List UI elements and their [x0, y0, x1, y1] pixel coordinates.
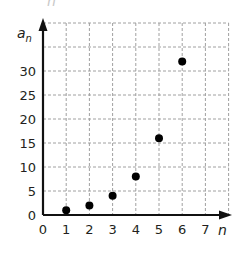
x-tick-labels: 01234567 — [39, 222, 210, 237]
y-tick-label: 0 — [28, 208, 36, 223]
x-tick-label: 7 — [201, 222, 209, 237]
y-tick-label: 20 — [19, 112, 36, 127]
x-tick-label: 4 — [132, 222, 140, 237]
x-tick-label: 1 — [62, 222, 70, 237]
y-axis-label-sub: n — [26, 33, 32, 44]
x-tick-label: 3 — [108, 222, 116, 237]
data-point — [155, 134, 163, 142]
y-tick-label: 15 — [19, 136, 36, 151]
grid-lines — [43, 23, 229, 215]
data-point — [132, 173, 140, 181]
x-tick-label: 2 — [85, 222, 93, 237]
data-point — [62, 206, 70, 214]
y-tick-label: 10 — [19, 160, 36, 175]
y-tick-label: 25 — [19, 88, 36, 103]
y-tick-label: 5 — [28, 184, 36, 199]
y-tick-label: 30 — [19, 64, 36, 79]
x-tick-label: 5 — [155, 222, 163, 237]
x-tick-label: 6 — [178, 222, 186, 237]
y-axis-label: an — [17, 25, 32, 44]
x-axis-arrow-icon — [219, 211, 232, 220]
y-tick-labels: 051015202530 — [19, 64, 36, 223]
y-axis-arrow-icon — [39, 18, 48, 31]
x-axis-label: n — [218, 222, 227, 238]
data-point — [85, 201, 93, 209]
data-point — [178, 57, 186, 65]
scatter-chart: n 01234567 051015202530 n an — [0, 0, 244, 257]
data-point — [109, 192, 117, 200]
cropped-header-text: n — [47, 0, 56, 9]
svg-text:an: an — [17, 25, 32, 44]
x-tick-label: 0 — [39, 222, 47, 237]
y-axis-label-main: a — [17, 25, 26, 41]
